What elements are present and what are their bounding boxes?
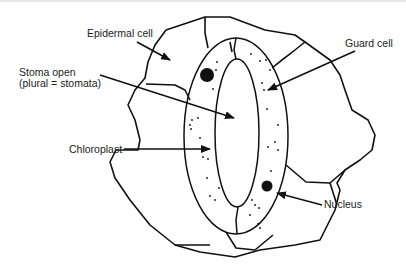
nucleus-right xyxy=(262,181,273,192)
nucleus-arrow xyxy=(277,193,322,205)
label-epidermal-cell: Epidermal cell xyxy=(87,28,153,39)
guard-cell-arrow xyxy=(268,51,355,90)
label-chloroplast: Chloroplast xyxy=(69,144,122,155)
epidermal-cells xyxy=(110,17,375,257)
guard-cells xyxy=(184,38,288,234)
nuclei xyxy=(200,68,273,192)
label-nucleus: Nucleus xyxy=(324,199,362,210)
stoma-diagram: Epidermal cell Stoma open (plural = stom… xyxy=(0,0,406,269)
label-stoma-plural: (plural = stomata) xyxy=(19,78,101,89)
label-guard-cell: Guard cell xyxy=(345,38,393,49)
epidermal-cell-arrow xyxy=(137,42,170,60)
nucleus-left xyxy=(200,68,214,82)
stoma-arrow xyxy=(100,75,234,118)
